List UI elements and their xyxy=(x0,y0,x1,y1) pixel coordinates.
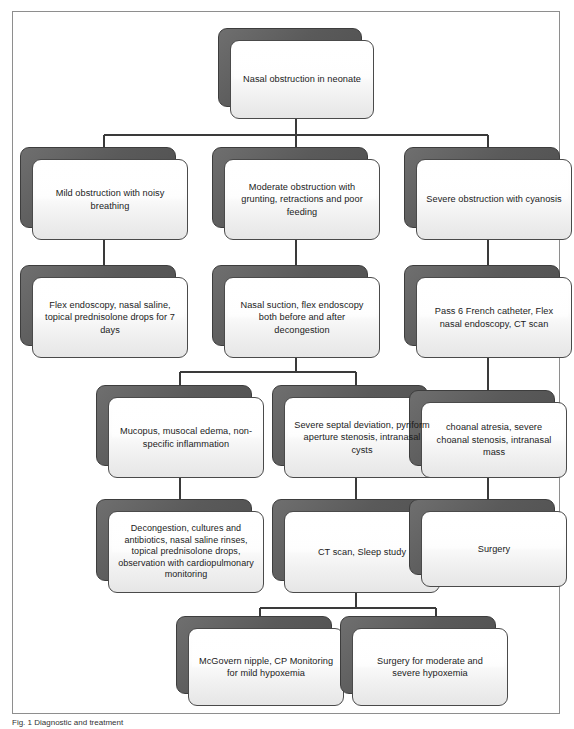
node-mild-workup-label: Flex endoscopy, nasal saline, topical pr… xyxy=(42,299,178,336)
node-face: Surgery for moderate and severe hypoxemi… xyxy=(352,628,508,706)
node-face: Nasal suction, flex endoscopy both befor… xyxy=(224,277,380,358)
node-severe-treatment-label: Surgery xyxy=(478,543,511,555)
node-face: Mucopus, musocal edema, non-specific inf… xyxy=(108,397,264,478)
node-moderate-treatment-medical[interactable]: Decongestion, cultures and antibiotics, … xyxy=(96,499,264,593)
node-face: Surgery xyxy=(421,511,567,587)
node-mild-presentation[interactable]: Mild obstruction with noisy breathing xyxy=(20,147,188,240)
node-face: Severe obstruction with cyanosis xyxy=(416,159,572,240)
node-face: Nasal obstruction in neonate xyxy=(230,40,374,119)
node-face: Decongestion, cultures and antibiotics, … xyxy=(108,511,264,593)
node-moderate-workup[interactable]: Nasal suction, flex endoscopy both befor… xyxy=(212,265,380,358)
node-severe-presentation-label: Severe obstruction with cyanosis xyxy=(426,193,561,205)
node-outcome-mild-hypoxemia-label: McGovern nipple, CP Monitoring for mild … xyxy=(198,655,334,680)
node-moderate-finding-inflammatory-label: Mucopus, musocal edema, non-specific inf… xyxy=(118,425,254,450)
node-mild-workup[interactable]: Flex endoscopy, nasal saline, topical pr… xyxy=(20,265,188,358)
node-moderate-presentation[interactable]: Moderate obstruction with grunting, retr… xyxy=(212,147,380,240)
node-outcome-severe-hypoxemia-label: Surgery for moderate and severe hypoxemi… xyxy=(362,655,498,680)
node-severe-treatment[interactable]: Surgery xyxy=(409,499,567,587)
node-face: Pass 6 French catheter, Flex nasal endos… xyxy=(416,277,572,358)
node-mild-presentation-label: Mild obstruction with noisy breathing xyxy=(42,187,178,212)
node-root[interactable]: Nasal obstruction in neonate xyxy=(218,28,374,119)
node-moderate-presentation-label: Moderate obstruction with grunting, retr… xyxy=(234,181,370,218)
node-severe-workup[interactable]: Pass 6 French catheter, Flex nasal endos… xyxy=(404,265,572,358)
node-face: McGovern nipple, CP Monitoring for mild … xyxy=(188,628,344,706)
node-moderate-workup-label: Nasal suction, flex endoscopy both befor… xyxy=(234,299,370,336)
node-severe-workup-label: Pass 6 French catheter, Flex nasal endos… xyxy=(426,305,562,330)
node-face: choanal atresia, severe choanal stenosis… xyxy=(421,402,567,478)
figure-canvas: Nasal obstruction in neonate Mild obstru… xyxy=(0,0,574,729)
node-severe-finding[interactable]: choanal atresia, severe choanal stenosis… xyxy=(409,390,567,478)
node-face: Flex endoscopy, nasal saline, topical pr… xyxy=(32,277,188,358)
node-moderate-treatment-imaging-label: CT scan, Sleep study xyxy=(318,546,406,558)
node-face: Mild obstruction with noisy breathing xyxy=(32,159,188,240)
node-face: Moderate obstruction with grunting, retr… xyxy=(224,159,380,240)
node-severe-presentation[interactable]: Severe obstruction with cyanosis xyxy=(404,147,572,240)
node-outcome-mild-hypoxemia[interactable]: McGovern nipple, CP Monitoring for mild … xyxy=(176,616,344,706)
node-moderate-finding-structural-label: Severe septal deviation, pyriform apertu… xyxy=(294,419,430,456)
node-moderate-finding-inflammatory[interactable]: Mucopus, musocal edema, non-specific inf… xyxy=(96,385,264,478)
figure-caption: Fig. 1 Diagnostic and treatment xyxy=(12,718,123,728)
node-severe-finding-label: choanal atresia, severe choanal stenosis… xyxy=(431,421,557,458)
node-moderate-treatment-medical-label: Decongestion, cultures and antibiotics, … xyxy=(118,523,254,581)
node-root-label: Nasal obstruction in neonate xyxy=(243,73,361,85)
node-outcome-severe-hypoxemia[interactable]: Surgery for moderate and severe hypoxemi… xyxy=(340,616,508,706)
